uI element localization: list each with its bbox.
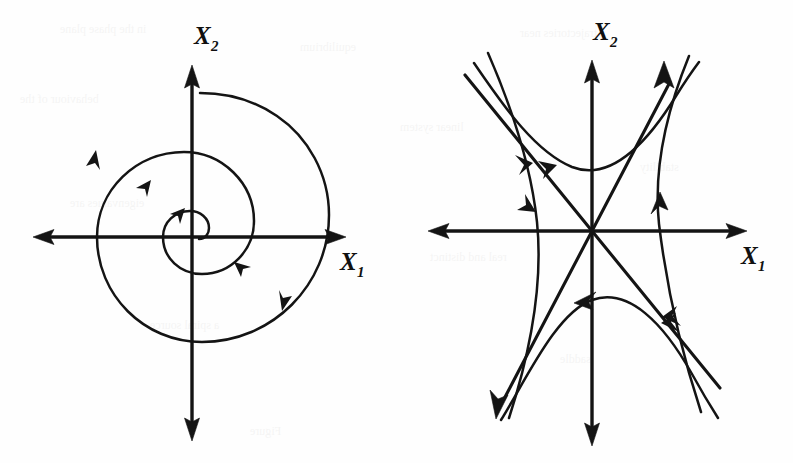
spiral-x1-label-subscript: 1 [357, 264, 365, 280]
saddle-x1-label-letter: X [740, 242, 759, 269]
saddle-x2-label-letter: X [592, 18, 611, 45]
saddle-x2-label-subscript: 2 [609, 34, 618, 50]
unstable-separatrix [490, 61, 674, 419]
spiral-x1-label: X 1 [339, 248, 365, 280]
spiral-x1-label-letter: X [339, 248, 358, 275]
saddle-x1-label: X 1 [740, 242, 766, 274]
spiral-flow-arrow-mid [136, 180, 151, 197]
saddle-diagram-svg: X 2 X 1 [396, 0, 793, 463]
saddle-x2-axis [585, 60, 600, 446]
hyperbola-branch-right [651, 56, 701, 412]
saddle-point-phase-portrait: X 2 X 1 [396, 0, 793, 463]
spiral-flow-arrow-outer-left [86, 150, 100, 170]
hyperbola-branch-left [488, 53, 539, 418]
spiral-x2-label-subscript: 2 [210, 38, 219, 54]
spiral-x2-axis [185, 65, 200, 441]
unstable-spiral-phase-portrait: X 2 X 1 [0, 0, 396, 463]
phase-portrait-figure: in the phase plane equilibrium trajector… [0, 0, 793, 463]
spiral-x2-label-letter: X [193, 22, 212, 49]
hyperbola-right-arrowhead [651, 192, 668, 214]
spiral-flow-arrow-lower-right [234, 262, 251, 277]
spiral-x1-axis [33, 230, 346, 245]
spiral-x2-label: X 2 [193, 22, 219, 54]
saddle-x2-label: X 2 [592, 18, 618, 50]
saddle-x1-label-subscript: 1 [758, 258, 766, 274]
unstable-separatrix-arrowhead-ne [654, 61, 674, 88]
spiral-trajectory [86, 93, 329, 342]
spiral-diagram-svg: X 2 X 1 [0, 0, 396, 463]
